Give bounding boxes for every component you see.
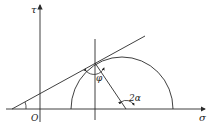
origin-label: O <box>31 113 39 123</box>
tangent-line <box>12 36 145 109</box>
sigma-label: σ <box>199 112 207 123</box>
tau-label: τ <box>31 4 37 15</box>
two-alpha-label: 2α <box>128 93 141 103</box>
phi-label: φ <box>96 73 103 83</box>
diagram-svg: τ σ O φ 2α <box>0 0 211 134</box>
mohr-circle-diagram: τ σ O φ 2α <box>0 0 211 134</box>
envelope-angle-arc <box>25 102 26 109</box>
